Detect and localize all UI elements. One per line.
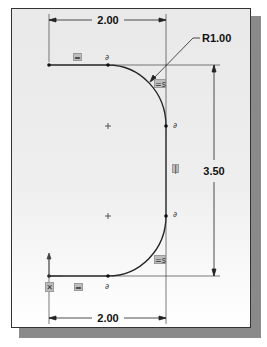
horizontal-relation-icon[interactable]: ═	[73, 53, 82, 61]
sketch-points	[47, 63, 168, 278]
horizontal-relation-icon[interactable]: ═	[74, 283, 83, 291]
tangent-relation-icon[interactable]: ∂	[102, 53, 112, 62]
dimension-bottom-width-value[interactable]: 2.00	[97, 312, 118, 324]
dimension-radius[interactable]: R1.00	[150, 32, 231, 82]
arc-centers	[105, 123, 111, 219]
tangent-relation-icon[interactable]: ∂	[170, 210, 180, 219]
equal-relation-icon[interactable]: =s	[154, 255, 166, 264]
sketch-profile[interactable]	[49, 65, 166, 276]
dimension-top-width[interactable]: 2.00	[49, 14, 166, 26]
tangent-relation-icon[interactable]: ∂	[170, 121, 180, 130]
dimension-height-value[interactable]: 3.50	[203, 165, 224, 177]
dimension-bottom-width[interactable]: 2.00	[49, 312, 166, 324]
vertical-relation-icon[interactable]: |	[172, 164, 179, 173]
sketch-canvas: 2.00 2.00 3.50 R1.00	[0, 0, 267, 347]
dimension-radius-value[interactable]: R1.00	[202, 32, 231, 44]
equal-relation-icon[interactable]: =s	[154, 79, 166, 88]
bottom-arc[interactable]	[108, 216, 166, 276]
dimension-height[interactable]: 3.50	[203, 65, 224, 276]
origin-axis	[47, 253, 62, 276]
tangent-relation-icon[interactable]: ∂	[102, 282, 112, 291]
fixed-relation-icon[interactable]: ✕	[45, 282, 54, 292]
dimension-top-width-value[interactable]: 2.00	[97, 14, 118, 26]
